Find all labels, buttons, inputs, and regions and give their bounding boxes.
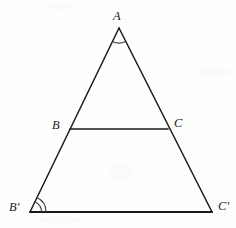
segment-a-cprime (119, 28, 212, 212)
figure-canvas: A B C B' C' (0, 0, 236, 228)
vertex-label-c: C (174, 117, 183, 130)
vertex-label-b-prime: B' (9, 201, 20, 214)
triangle-diagram (0, 0, 236, 228)
angle-mark-bprime-arc-2 (35, 202, 41, 212)
angle-mark-a (112, 41, 125, 43)
vertex-label-a: A (113, 10, 121, 23)
vertex-label-b: B (52, 119, 60, 132)
vertex-label-c-prime: C' (218, 200, 229, 213)
segment-a-bprime (30, 28, 119, 212)
